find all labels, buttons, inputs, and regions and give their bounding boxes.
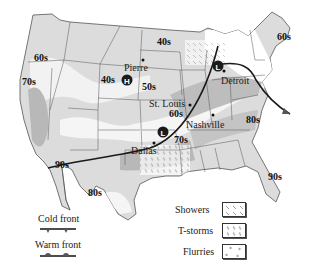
svg-text:H: H	[124, 77, 130, 86]
legend-tstorms-label: T-storms	[178, 225, 213, 236]
svg-text:*: *	[238, 246, 241, 253]
temp-label: 50s	[142, 81, 156, 92]
showers-pattern-icon	[222, 202, 246, 217]
temp-label: 70s	[174, 134, 188, 145]
legend-cold-front-label: Cold front	[38, 213, 79, 224]
warm-front-icon	[40, 253, 76, 256]
temp-label: 90s	[268, 171, 282, 182]
temp-label: 60s	[277, 31, 291, 42]
legend-flurries-label: Flurries	[183, 246, 214, 257]
svg-text:L: L	[161, 129, 166, 138]
temp-label: 40s	[101, 74, 115, 85]
city-label-pierre: Pierre	[124, 62, 148, 73]
city-label-dallas: Dallas	[131, 145, 157, 156]
flurries-pattern-icon: ** **	[222, 244, 246, 259]
cold-front-icon	[40, 229, 76, 233]
weather-map: H L L Pierre St. Louis Detroit Nashville…	[0, 0, 311, 270]
tstorms-pattern-icon	[222, 223, 246, 238]
pressure-center-low-dallas: L	[158, 127, 169, 138]
svg-text:*: *	[225, 252, 228, 259]
temp-label: 80s	[88, 187, 102, 198]
city-label-nashville: Nashville	[186, 119, 225, 130]
temp-label: 40s	[157, 36, 171, 47]
svg-text:*: *	[236, 253, 239, 259]
legend-showers-label: Showers	[175, 204, 209, 215]
svg-text:*: *	[229, 246, 232, 252]
temp-label: 60s	[34, 52, 48, 63]
pressure-center-low-detroit: L	[213, 61, 224, 72]
svg-text:L: L	[216, 63, 221, 72]
temp-label: 90s	[55, 159, 69, 170]
temp-label: 80s	[246, 114, 260, 125]
legend-warm-front-label: Warm front	[35, 239, 81, 250]
city-label-detroit: Detroit	[221, 75, 250, 86]
temp-label: 60s	[169, 108, 183, 119]
temp-label: 70s	[22, 76, 36, 87]
pressure-center-high: H	[122, 75, 133, 86]
